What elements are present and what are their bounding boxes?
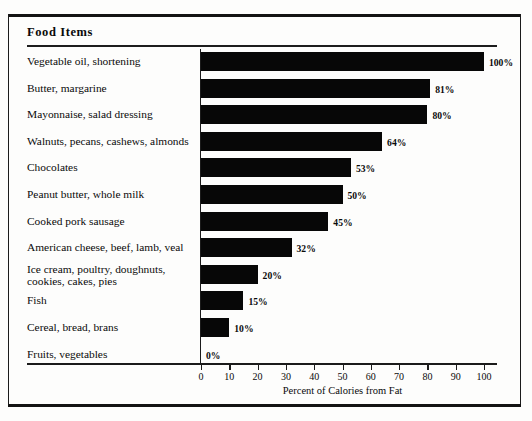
bar-value-label: 0% [206,350,220,361]
chart-row: American cheese, beef, lamb, veal32% [0,238,532,260]
bar [201,105,427,124]
category-label: Mayonnaise, salad dressing [27,108,195,121]
bar [201,185,343,204]
bar-value-label: 32% [297,243,316,254]
category-label: Fish [27,294,195,307]
bar [201,212,328,231]
x-axis-tick-label: 100 [477,371,492,382]
x-axis-tick-label: 80 [422,371,432,382]
category-label: American cheese, beef, lamb, veal [27,241,195,254]
x-axis-tick-label: 20 [253,371,263,382]
x-axis-title: Percent of Calories from Fat [201,385,484,396]
category-label: Butter, margarine [27,82,195,95]
bar [201,238,292,257]
category-label: Ice cream, poultry, doughnuts, cookies, … [27,263,195,288]
chart-row: Mayonnaise, salad dressing80% [0,105,532,127]
bar [201,265,258,284]
chart-row: Butter, margarine81% [0,79,532,101]
x-axis-tick-label: 90 [451,371,461,382]
bar-value-label: 53% [356,163,375,174]
x-axis-tick-label: 30 [281,371,291,382]
category-label: Cooked pork sausage [27,215,195,228]
chart-row: Peanut butter, whole milk50% [0,185,532,207]
chart-row: Fruits, vegetables0% [0,345,532,367]
bar-value-label: 64% [387,137,406,148]
x-axis-tick-label: 10 [224,371,234,382]
chart-row: Fish15% [0,291,532,313]
bar-value-label: 45% [333,217,352,228]
bar-value-label: 10% [234,323,253,334]
bar [201,79,430,98]
chart-row: Chocolates53% [0,158,532,180]
bar [201,132,382,151]
x-axis-tick-label: 40 [309,371,319,382]
x-axis-tick-label: 50 [338,371,348,382]
x-axis-tick-label: 60 [366,371,376,382]
category-label: Chocolates [27,161,195,174]
x-axis-tick-label: 70 [394,371,404,382]
category-label: Walnuts, pecans, cashews, almonds [27,135,195,148]
chart-row: Walnuts, pecans, cashews, almonds64% [0,132,532,154]
category-label: Peanut butter, whole milk [27,188,195,201]
chart-page: Food Items Percent of Calories from Fat … [0,0,532,421]
bar [201,52,484,71]
bar-value-label: 100% [489,57,513,68]
chart-row: Cooked pork sausage45% [0,212,532,234]
category-label: Vegetable oil, shortening [27,55,195,68]
chart-row: Cereal, bread, brans10% [0,318,532,340]
chart-row: Ice cream, poultry, doughnuts, cookies, … [0,265,532,287]
bar [201,158,351,177]
bar [201,318,229,337]
bar-value-label: 80% [432,110,451,121]
category-label: Fruits, vegetables [27,348,195,361]
category-label: Cereal, bread, brans [27,321,195,334]
bar [201,291,243,310]
bar-value-label: 15% [248,296,267,307]
bar-value-label: 81% [435,84,454,95]
chart-row: Vegetable oil, shortening100% [0,52,532,74]
bar-value-label: 20% [263,270,282,281]
bar-chart-plot: Percent of Calories from Fat 01020304050… [0,0,532,421]
bar-value-label: 50% [348,190,367,201]
x-axis-tick-label: 0 [199,371,204,382]
